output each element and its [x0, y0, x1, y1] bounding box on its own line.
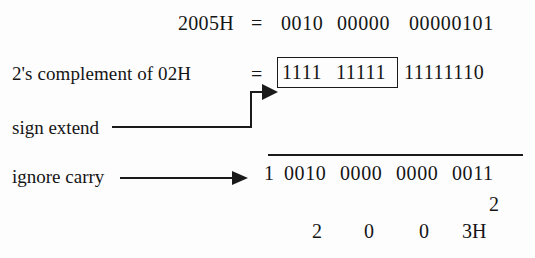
sign-extend-leader-vertical	[250, 92, 252, 128]
result-carry-bit: 1	[264, 163, 274, 183]
ignore-carry-label: ignore carry	[12, 167, 104, 186]
hex-digit-3: 0	[419, 221, 429, 241]
result-bit-group-1: 0010	[284, 163, 326, 183]
row1-bit-group-3: 00000101	[409, 13, 494, 33]
row1-bit-group-2: 00000	[337, 13, 390, 33]
sign-extend-label: sign extend	[12, 118, 99, 137]
ignore-carry-arrowhead-icon	[232, 171, 248, 185]
row2-equals-sign: =	[251, 64, 262, 84]
row1-equals-sign: =	[251, 13, 262, 33]
hex-digit-1: 2	[312, 221, 322, 241]
result-bit-group-3: 0000	[396, 163, 438, 183]
result-bit-group-2: 0000	[340, 163, 382, 183]
row2-boxed-bit-group-1: 1111	[282, 62, 322, 82]
binary-arithmetic-diagram: 2005H = 0010 00000 00000101 2's compleme…	[0, 0, 535, 258]
sign-extend-arrowhead-icon	[262, 84, 278, 100]
row2-boxed-bit-group-2: 11111	[336, 62, 386, 82]
ignore-carry-leader-line	[120, 177, 235, 179]
operand-2-label: 2's complement of 02H	[12, 64, 191, 83]
sign-extend-leader-horizontal	[112, 126, 252, 128]
result-bit-group-4: 0011	[452, 163, 494, 183]
operand-1-label: 2005H	[178, 13, 234, 33]
sum-rule-line	[268, 154, 523, 156]
hex-digit-2: 0	[364, 221, 374, 241]
hex-digit-4: 3H	[462, 221, 486, 241]
row2-outside-bit-group: 11111110	[404, 62, 484, 82]
hex-stray-digit: 2	[489, 194, 499, 214]
row1-bit-group-1: 0010	[281, 13, 323, 33]
